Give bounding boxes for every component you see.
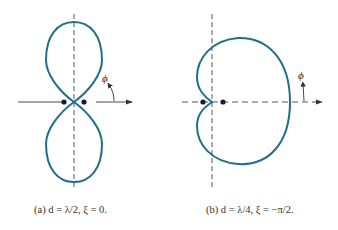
caption-a: (a) d = λ/2, ξ = 0. [34, 204, 107, 215]
angle-indicator [303, 84, 304, 101]
radiation-pattern-figure: ϕ ϕ [0, 0, 338, 230]
angle-arc [109, 85, 114, 101]
panel-b: ϕ [182, 14, 322, 190]
element-dot-right [81, 99, 86, 104]
element-dot-left [200, 99, 205, 104]
cardioid-pattern [197, 38, 290, 164]
caption-b: (b) d = λ/4, ξ = −π/2. [206, 204, 294, 215]
phi-label: ϕ [102, 72, 108, 84]
element-dot-left [61, 99, 66, 104]
panel-a: ϕ [18, 14, 132, 190]
element-dot-right [220, 99, 225, 104]
phi-label: ϕ [298, 69, 304, 81]
